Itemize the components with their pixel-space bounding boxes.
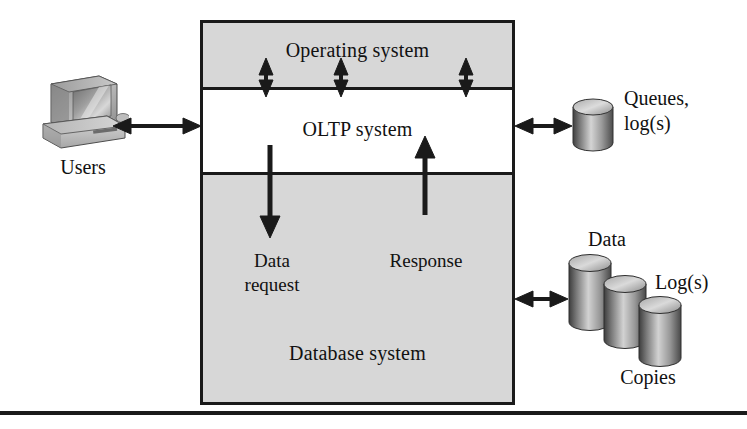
system-stack-box: Operating system OLTP system Database sy… <box>200 20 515 405</box>
queue-cylinder-icon <box>572 98 614 152</box>
users-group: Users <box>33 72 133 182</box>
response-text: Response <box>390 250 463 271</box>
desktop-computer-icon <box>37 72 129 154</box>
storage-cylinders-icon <box>565 252 687 368</box>
database-system-label: Database system <box>203 342 512 364</box>
response-label: Response <box>373 249 479 273</box>
data-request-line-1: Data <box>254 250 290 271</box>
copies-cylinder <box>639 297 681 367</box>
users-label: Users <box>33 156 133 179</box>
data-request-label: Data request <box>224 249 320 297</box>
diagram-canvas: Operating system OLTP system Database sy… <box>0 0 747 429</box>
logs-label: Log(s) <box>655 271 739 294</box>
queues-line-2: log(s) <box>624 112 671 134</box>
queues-logs-label: Queues, log(s) <box>624 86 736 136</box>
oltp-system-label: OLTP system <box>203 118 512 140</box>
bottom-divider <box>0 411 747 415</box>
operating-system-label: Operating system <box>203 39 512 61</box>
copies-label: Copies <box>598 366 698 389</box>
oltp-to-queues-arrow <box>515 118 572 134</box>
layer-operating-system: Operating system <box>203 23 512 90</box>
queues-line-1: Queues, <box>624 87 689 109</box>
data-request-line-2: request <box>245 274 300 295</box>
data-label: Data <box>572 228 642 251</box>
layer-oltp-system: OLTP system <box>203 90 512 175</box>
database-to-storage-arrow <box>515 291 568 307</box>
